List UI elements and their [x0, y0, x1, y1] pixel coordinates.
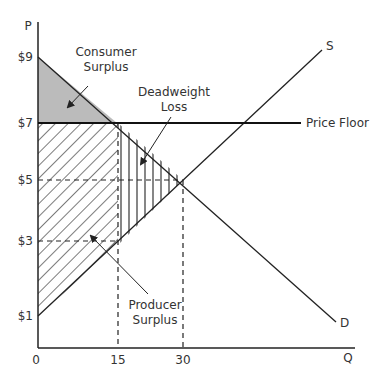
deadweight-loss-label-1: Deadweight	[138, 85, 210, 99]
producer-surplus-region	[38, 123, 118, 316]
x-tick-0: 0	[32, 353, 40, 367]
consumer-surplus-label-1: Consumer	[75, 45, 136, 59]
supply-label: S	[326, 39, 334, 53]
producer-surplus-label-2: Surplus	[133, 313, 178, 327]
price-floor-diagram: P Q $9 $7 $5 $3 $1 0 15 30 S D Price Flo…	[0, 0, 384, 387]
producer-surplus-label-1: Producer	[128, 298, 181, 312]
y-axis-label: P	[24, 19, 31, 33]
x-tick-15: 15	[110, 353, 125, 367]
y-tick-3: $3	[18, 234, 33, 248]
y-tick-9: $9	[18, 50, 33, 64]
y-tick-1: $1	[18, 309, 33, 323]
y-tick-5: $5	[18, 173, 33, 187]
x-axis-label: Q	[343, 351, 352, 365]
consumer-surplus-label-2: Surplus	[84, 60, 129, 74]
demand-label: D	[340, 316, 349, 330]
producer-surplus-arrow	[91, 236, 148, 294]
deadweight-loss-label-2: Loss	[161, 100, 187, 114]
x-tick-30: 30	[175, 353, 190, 367]
y-tick-7: $7	[18, 116, 33, 130]
price-floor-label: Price Floor	[306, 116, 369, 130]
deadweight-loss-region	[118, 123, 183, 245]
